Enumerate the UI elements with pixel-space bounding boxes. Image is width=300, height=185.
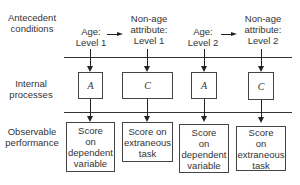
performance-text: Score on dependent variable: [181, 127, 228, 171]
condition-line: Non-age: [240, 13, 286, 24]
divider-bottom: [64, 112, 292, 113]
arrow-down-icon: [201, 116, 207, 122]
condition-age-level-2: Age: Level 2: [186, 26, 220, 48]
connector: [90, 98, 91, 116]
condition-line: Non-age: [126, 13, 172, 24]
performance-box-extraneous-1: Score on extraneous task: [122, 122, 173, 162]
arrow-right-icon: [117, 32, 123, 36]
process-box-c-1: C: [122, 72, 173, 99]
condition-nonage-level-2: Non-age attribute: Level 2: [240, 13, 286, 46]
condition-nonage-level-1: Non-age attribute: Level 1: [126, 13, 172, 46]
arrow-right-icon: [231, 32, 237, 36]
process-label: A: [201, 80, 207, 91]
connector: [204, 49, 205, 67]
condition-age-level-1: Age: Level 1: [74, 26, 108, 48]
performance-box-extraneous-2: Score on extraneous task: [236, 126, 286, 171]
process-box-a-1: A: [78, 72, 103, 99]
divider-top: [64, 57, 292, 58]
row-label-observable-performance: Observable performance: [2, 126, 62, 148]
connector: [261, 49, 262, 67]
condition-line: Level 2: [240, 35, 286, 46]
process-label: C: [258, 81, 265, 92]
condition-line: Age:: [186, 26, 220, 37]
connector: [261, 99, 262, 117]
arrow-down-icon: [258, 117, 264, 123]
connector: [204, 98, 205, 116]
performance-box-dependent-1: Score on dependent variable: [66, 122, 115, 172]
connector: [147, 49, 148, 67]
performance-text: Score on extraneous task: [123, 126, 172, 159]
condition-line: Age:: [74, 26, 108, 37]
condition-line: Level 2: [186, 37, 220, 48]
connector: [147, 98, 148, 116]
process-box-a-2: A: [191, 72, 217, 99]
performance-text: Score on dependent variable: [67, 125, 114, 169]
condition-line: Level 1: [126, 35, 172, 46]
process-label: A: [87, 80, 93, 91]
condition-line: Level 1: [74, 37, 108, 48]
condition-line: attribute:: [126, 24, 172, 35]
process-box-c-2: C: [248, 72, 274, 100]
condition-line: attribute:: [240, 24, 286, 35]
row-label-internal-processes: Internal processes: [2, 78, 60, 100]
row-label-antecedent-conditions: Antecedent conditions: [2, 12, 62, 34]
connector: [90, 49, 91, 67]
performance-box-dependent-2: Score on dependent variable: [179, 124, 229, 173]
performance-text: Score on extraneous task: [237, 127, 286, 171]
process-label: C: [144, 80, 151, 91]
